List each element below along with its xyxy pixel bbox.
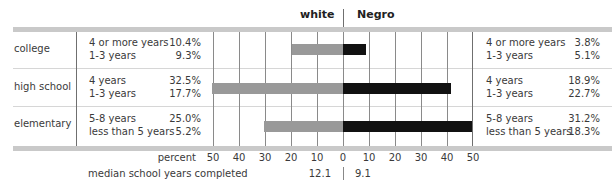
sub-label: 1-3 years [486,87,533,100]
bar-negro-elementary [343,121,472,132]
sub-label: 4 or more years [486,36,566,49]
x-tick: 50 [463,152,483,163]
sub-value: 3.8% [560,36,600,49]
header-negro: Negro [357,8,395,21]
header-white: white [300,8,334,21]
median-negro: 9.1 [355,168,371,179]
median-label: median school years completed [88,168,248,179]
x-tick: 20 [385,152,405,163]
left-divider [76,32,77,146]
bar-white-elementary [264,121,343,132]
category-college: college [14,43,50,54]
sub-label: less than 5 years [486,125,572,138]
sub-value: 5.1% [560,49,600,62]
sub-value: 9.3% [160,49,201,62]
category-elementary: elementary [14,118,71,129]
row-separator [13,68,612,69]
sub-label: 4 years [89,74,126,87]
sub-label: 1-3 years [89,49,136,62]
sub-label: 4 years [486,74,523,87]
median-white: 12.1 [305,168,331,179]
right-divider [472,32,473,146]
sub-value: 32.5% [160,74,201,87]
header-divider [343,9,344,28]
x-tick: 20 [281,152,301,163]
x-tick: 30 [255,152,275,163]
x-tick: 40 [229,152,249,163]
x-tick: 10 [307,152,327,163]
top-band [13,27,612,32]
bar-white-high-school [212,83,343,94]
bar-negro-high-school [343,83,451,94]
category-high-school: high school [14,81,71,92]
sub-value: 31.2% [560,112,600,125]
sub-value: 17.7% [160,87,201,100]
sub-label: 1-3 years [486,49,533,62]
bar-white-college [292,44,343,55]
sub-value: 5.2% [160,125,201,138]
sub-value: 10.4% [160,36,201,49]
row-separator [13,106,612,107]
x-tick-zero: 0 [333,152,353,163]
median-divider [343,167,344,180]
x-tick: 10 [359,152,379,163]
sub-value: 18.3% [560,125,600,138]
bottom-band [13,146,612,151]
bar-negro-college [343,44,366,55]
sub-value: 18.9% [560,74,600,87]
sub-label: 5-8 years [486,112,533,125]
x-tick: 30 [411,152,431,163]
sub-value: 25.0% [160,112,201,125]
sub-value: 22.7% [560,87,600,100]
sub-label: 5-8 years [89,112,136,125]
x-tick: 50 [203,152,223,163]
sub-label: 4 or more years [89,36,169,49]
x-axis-label: percent [150,152,196,163]
sub-label: 1-3 years [89,87,136,100]
x-tick: 40 [437,152,457,163]
